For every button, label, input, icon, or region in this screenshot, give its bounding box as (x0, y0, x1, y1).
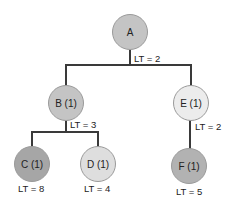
node-e-label: E (1) (180, 98, 202, 109)
lead-time-d: LT = 4 (84, 183, 110, 194)
node-c: C (1) (14, 146, 50, 182)
lead-time-e: LT = 2 (195, 121, 221, 132)
node-b-label: B (1) (55, 98, 77, 109)
node-f-label: F (1) (178, 161, 199, 172)
lead-time-c: LT = 8 (18, 183, 44, 194)
node-a-label: A (127, 27, 134, 38)
node-c-label: C (1) (21, 159, 43, 170)
edge-a-b (65, 64, 67, 86)
node-a: A (112, 14, 148, 50)
edge-a-e (190, 64, 192, 86)
node-f: F (1) (171, 148, 207, 184)
node-e: E (1) (173, 85, 209, 121)
node-b: B (1) (48, 85, 84, 121)
node-d-label: D (1) (87, 159, 109, 170)
lead-time-a: LT = 2 (134, 53, 160, 64)
edge-e-f (189, 120, 191, 150)
edge-a-bar (66, 64, 192, 66)
lead-time-b: LT = 3 (70, 119, 96, 130)
lead-time-f: LT = 5 (176, 186, 202, 197)
node-d: D (1) (80, 146, 116, 182)
edge-b-d (97, 131, 99, 147)
edge-b-c (31, 131, 33, 147)
edge-b-bar (32, 131, 99, 133)
